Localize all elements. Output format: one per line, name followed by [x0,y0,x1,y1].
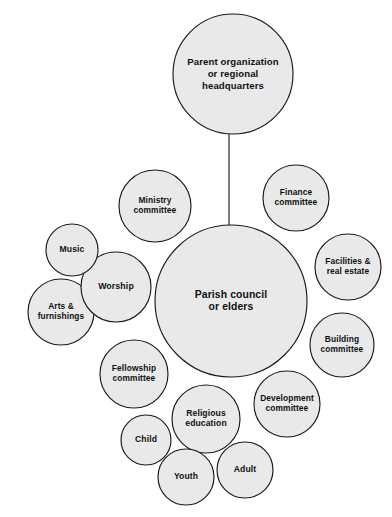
node-development-committee[interactable]: Developmentcommittee [254,371,320,437]
node-layer: Parent organizationor regionalheadquarte… [28,14,381,505]
node-label-line: Adult [234,464,256,474]
node-ministry-committee[interactable]: Ministrycommittee [119,170,191,242]
node-adult[interactable]: Adult [217,442,273,498]
bubble-diagram: Parent organizationor regionalheadquarte… [0,0,392,517]
node-label-line: Development [260,393,314,403]
node-label-line: furnishings [38,311,85,321]
node-label-line: Parent organization [187,56,278,67]
node-label-line: committee [275,197,318,207]
node-label-line: Music [60,244,85,254]
node-label-line: headquarters [202,79,264,90]
node-label-line: Youth [174,471,198,481]
node-label-line: real estate [327,266,370,276]
node-label-line: committee [113,373,156,383]
node-label-line: Parish council [195,288,267,299]
node-label-line: or regional [208,68,259,79]
node-label-line: Facilities & [325,256,370,266]
node-label-line: Worship [98,281,134,291]
node-label-line: Arts & [48,301,74,311]
node-label-line: Building [325,334,359,344]
node-label-facilities-real-estate: Facilities &real estate [325,256,370,276]
node-finance-committee[interactable]: Financecommittee [263,165,329,231]
node-label-building-committee: Buildingcommittee [321,334,364,354]
node-label-line: Fellowship [112,363,156,373]
node-label-line: committee [134,205,177,215]
node-label-line: education [185,418,227,428]
node-parent-organization[interactable]: Parent organizationor regionalheadquarte… [173,14,293,134]
node-label-line: Child [135,434,157,444]
node-music[interactable]: Music [46,224,98,276]
node-label-line: committee [266,403,309,413]
node-label-development-committee: Developmentcommittee [260,393,314,413]
node-label-adult: Adult [234,464,256,474]
node-label-finance-committee: Financecommittee [275,187,318,207]
diagram-canvas: Parent organizationor regionalheadquarte… [0,0,392,517]
node-religious-education[interactable]: Religiouseducation [172,385,240,453]
node-youth[interactable]: Youth [158,449,214,505]
node-label-youth: Youth [174,471,198,481]
node-label-line: Religious [186,408,226,418]
node-label-child: Child [135,434,157,444]
node-label-ministry-committee: Ministrycommittee [134,195,177,215]
node-label-religious-education: Religiouseducation [185,408,227,428]
node-label-fellowship-committee: Fellowshipcommittee [112,363,156,383]
node-label-line: Ministry [139,195,172,205]
node-building-committee[interactable]: Buildingcommittee [310,313,374,377]
node-facilities-real-estate[interactable]: Facilities &real estate [315,234,381,300]
node-label-worship: Worship [98,281,134,291]
node-fellowship-committee[interactable]: Fellowshipcommittee [100,340,168,408]
node-label-line: Finance [280,187,313,197]
node-child[interactable]: Child [121,415,171,465]
node-label-line: or elders [209,301,254,312]
node-parish-council[interactable]: Parish councilor elders [155,225,307,377]
node-label-music: Music [60,244,85,254]
node-label-line: committee [321,344,364,354]
